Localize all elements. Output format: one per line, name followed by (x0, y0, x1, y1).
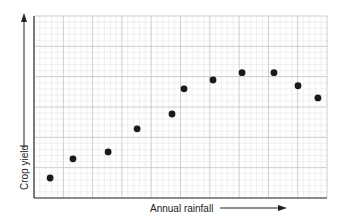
y-arrow-icon (21, 13, 27, 22)
data-point (210, 77, 217, 84)
data-point (70, 155, 77, 162)
scatter-chart: Crop yield Annual rainfall (0, 0, 343, 222)
data-point (47, 175, 54, 182)
major-gridlines (34, 16, 327, 198)
data-point (181, 85, 188, 92)
data-point (295, 82, 302, 89)
data-point (315, 95, 322, 102)
y-axis-label: Crop yield (19, 145, 30, 190)
data-point (239, 69, 246, 76)
data-point (271, 69, 278, 76)
data-point (169, 111, 176, 118)
data-point (134, 125, 141, 132)
x-axis-label: Annual rainfall (150, 203, 213, 214)
data-point (105, 148, 112, 155)
x-arrow-icon (278, 205, 287, 211)
